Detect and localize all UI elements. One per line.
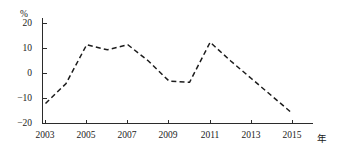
line-chart: % 20 10 0 −10 −20 2003 2005 2007 2009 20… <box>0 0 344 154</box>
plot-area <box>0 0 344 154</box>
y-axis <box>43 18 47 124</box>
data-series-line <box>46 42 293 113</box>
x-axis <box>43 120 314 124</box>
